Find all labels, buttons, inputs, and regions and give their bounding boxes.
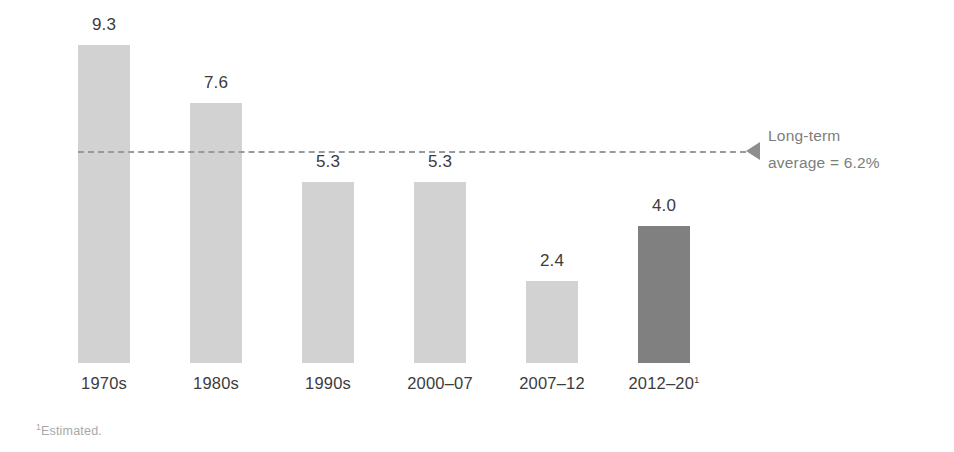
x-axis-label-text: 2012–20 [628,374,694,392]
reference-line-annotation-line2: average = 6.2% [768,149,880,176]
plot-area: 9.3 7.6 5.3 5.3 2.4 4.0 1970s 1980s 1990… [0,0,954,452]
x-axis-label-text: 2000–07 [407,374,473,392]
bar-1990s[interactable] [302,182,354,363]
footnote: 1Estimated. [36,424,102,438]
reference-line-annotation-line1: Long-term [768,122,880,149]
x-axis-label-text: 2007–12 [519,374,585,392]
value-label-1990s: 5.3 [268,152,388,172]
x-axis-label-text: 1990s [305,374,351,392]
value-label-2000-07: 5.3 [380,152,500,172]
x-axis-label-text: 1970s [81,374,127,392]
value-label-2007-12: 2.4 [492,251,612,271]
bar-rect [638,226,690,363]
x-axis-label-text: 1980s [193,374,239,392]
bar-rect [414,182,466,363]
bar-2000-07[interactable] [414,182,466,363]
reference-line-arrow-icon [746,142,760,160]
bar-1970s[interactable] [78,45,130,363]
bar-2007-12[interactable] [526,281,578,363]
bar-2012-20[interactable] [638,226,690,363]
bar-1980s[interactable] [190,103,242,363]
bar-rect [78,45,130,363]
value-label-1980s: 7.6 [156,73,276,93]
value-label-2012-20: 4.0 [604,196,724,216]
bar-rect [302,182,354,363]
reference-line-long-term-average [78,151,746,153]
footnote-text: Estimated. [41,424,102,438]
bar-rect [190,103,242,363]
bar-rect [526,281,578,363]
x-axis-label-2012-20: 2012–201 [594,374,734,393]
value-label-1970s: 9.3 [44,15,164,35]
bar-chart: 9.3 7.6 5.3 5.3 2.4 4.0 1970s 1980s 1990… [0,0,954,452]
x-axis-label-footnote-marker: 1 [694,374,699,385]
reference-line-annotation: Long-term average = 6.2% [768,122,880,176]
